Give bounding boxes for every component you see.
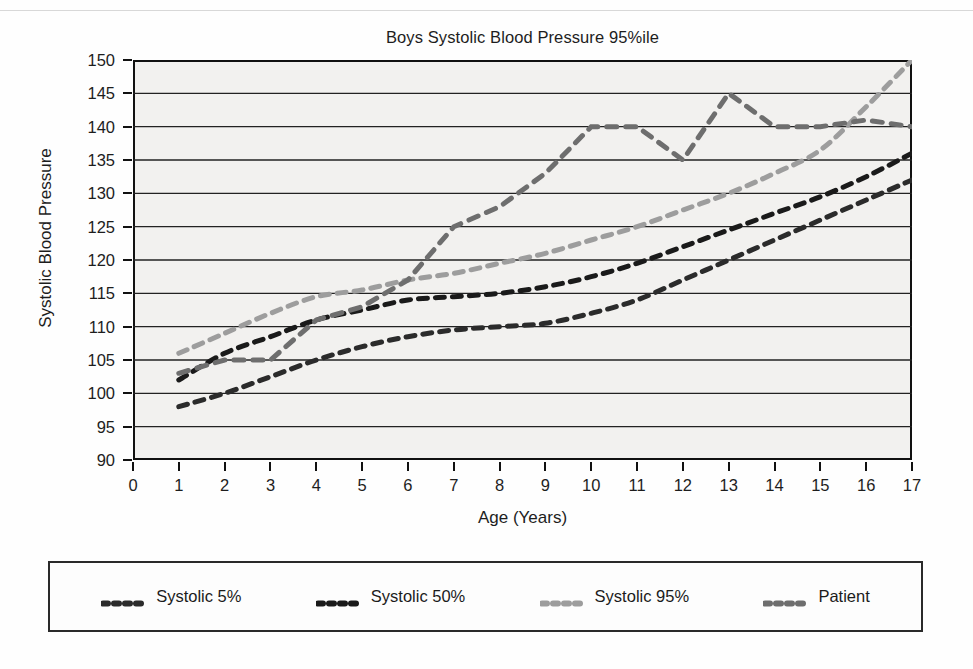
x-tick-mark	[682, 462, 684, 471]
x-tick-label: 17	[892, 476, 932, 495]
legend-swatch-icon	[316, 593, 362, 600]
legend-item[interactable]: Systolic 50%	[316, 587, 465, 606]
x-tick-label: 0	[113, 476, 153, 495]
x-tick-label: 13	[709, 476, 749, 495]
x-tick-label: 16	[846, 476, 886, 495]
scanned-page: Boys Systolic Blood Pressure 95%ile Syst…	[0, 0, 973, 669]
legend-label: Systolic 95%	[595, 587, 689, 606]
legend-item[interactable]: Systolic 95%	[540, 587, 689, 606]
legend-swatch-icon	[763, 593, 809, 600]
x-tick-mark	[224, 462, 226, 471]
x-tick-label: 15	[800, 476, 840, 495]
x-tick-mark	[499, 462, 501, 471]
legend-label: Systolic 5%	[156, 587, 241, 606]
x-tick-mark	[911, 462, 913, 471]
x-tick-label: 3	[250, 476, 290, 495]
legend-item[interactable]: Systolic 5%	[101, 587, 241, 606]
chart-legend: Systolic 5%Systolic 50%Systolic 95%Patie…	[48, 561, 923, 632]
plot-lines	[133, 60, 912, 460]
x-tick-mark	[269, 462, 271, 471]
x-tick-label: 9	[525, 476, 565, 495]
x-tick-label: 14	[755, 476, 795, 495]
plot-area	[133, 60, 912, 460]
x-tick-mark	[819, 462, 821, 471]
series-line	[179, 60, 912, 353]
legend-swatch-icon	[540, 593, 586, 600]
x-tick-mark	[728, 462, 730, 471]
x-tick-mark	[774, 462, 776, 471]
x-tick-label: 8	[480, 476, 520, 495]
chart-figure: Boys Systolic Blood Pressure 95%ile Syst…	[0, 18, 973, 538]
x-tick-label: 6	[388, 476, 428, 495]
x-tick-label: 2	[205, 476, 245, 495]
x-tick-label: 11	[617, 476, 657, 495]
x-tick-mark	[178, 462, 180, 471]
x-tick-mark	[315, 462, 317, 471]
x-tick-mark	[590, 462, 592, 471]
legend-items: Systolic 5%Systolic 50%Systolic 95%Patie…	[50, 563, 921, 630]
page-top-rule	[0, 10, 973, 11]
x-tick-label: 4	[296, 476, 336, 495]
x-tick-label: 5	[342, 476, 382, 495]
x-tick-mark	[407, 462, 409, 471]
legend-swatch-icon	[101, 593, 147, 600]
x-tick-mark	[132, 462, 134, 471]
x-tick-label: 7	[434, 476, 474, 495]
x-tick-label: 10	[571, 476, 611, 495]
x-tick-label: 1	[159, 476, 199, 495]
x-tick-mark	[865, 462, 867, 471]
x-tick-mark	[636, 462, 638, 471]
legend-item[interactable]: Patient	[763, 587, 869, 606]
x-tick-mark	[544, 462, 546, 471]
legend-label: Patient	[818, 587, 869, 606]
legend-label: Systolic 50%	[371, 587, 465, 606]
x-tick-mark	[453, 462, 455, 471]
x-tick-mark	[361, 462, 363, 471]
x-tick-label: 12	[663, 476, 703, 495]
